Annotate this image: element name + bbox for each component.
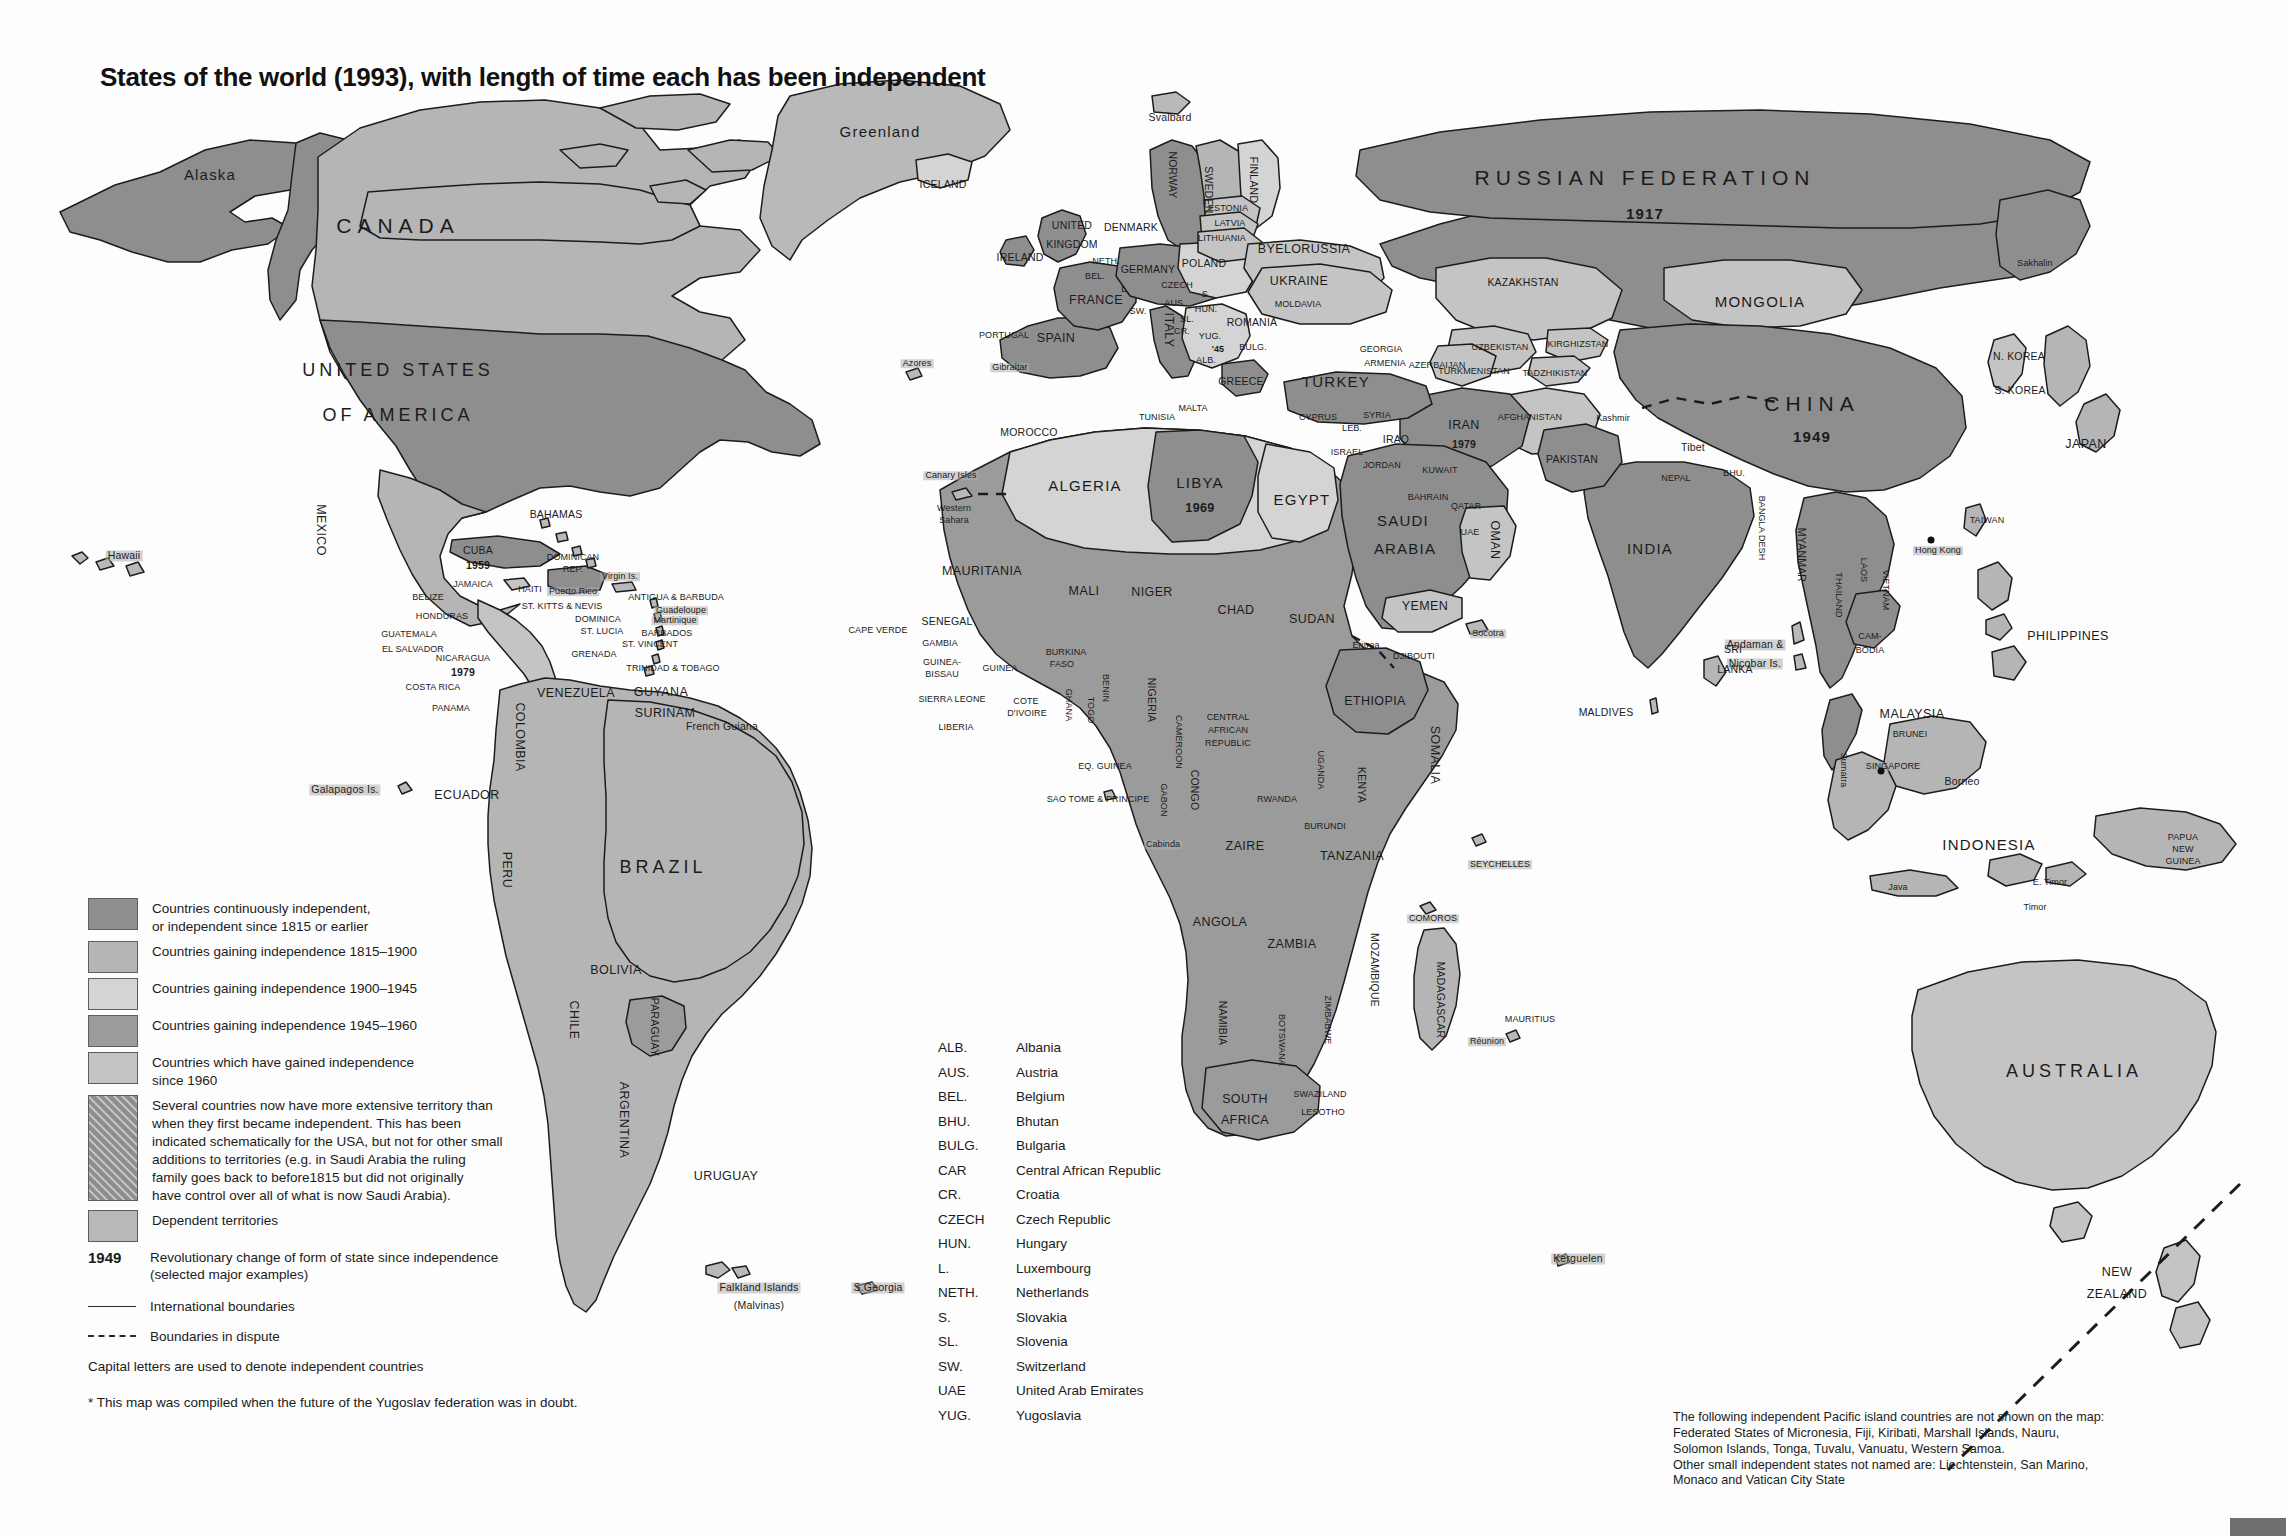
abbreviation-row: UAEUnited Arab Emirates — [938, 1383, 1161, 1398]
legend-swatch-ind_1900_1945 — [88, 978, 138, 1010]
legend-item-1: Countries gaining independence 1815–1900 — [88, 941, 588, 973]
abbreviation-row: HUN.Hungary — [938, 1236, 1161, 1251]
legend-label-3: Countries gaining independence 1945–1960 — [152, 1015, 417, 1035]
legend-swatch-ind_since_1960 — [88, 1052, 138, 1084]
legend-label-6: Dependent territories — [152, 1210, 278, 1230]
abbreviation-row: CR.Croatia — [938, 1187, 1161, 1202]
abbreviation-key: SL. — [938, 1334, 1016, 1349]
legend-item-3: Countries gaining independence 1945–1960 — [88, 1015, 588, 1047]
abbreviation-row: SW.Switzerland — [938, 1359, 1161, 1374]
pacific-note-line: The following independent Pacific island… — [1673, 1410, 2104, 1426]
abbreviation-row: AUS.Austria — [938, 1065, 1161, 1080]
abbreviation-row: BEL.Belgium — [938, 1089, 1161, 1104]
legend-international-boundaries-row: International boundaries — [88, 1296, 588, 1316]
abbreviation-row: ALB.Albania — [938, 1040, 1161, 1055]
pacific-note-line: Monaco and Vatican City State — [1673, 1473, 2104, 1489]
legend-label-2: Countries gaining independence 1900–1945 — [152, 978, 417, 998]
map-legend: Countries continuously independent, or i… — [88, 898, 588, 1412]
abbreviation-value: Netherlands — [1016, 1285, 1089, 1300]
abbreviation-key: YUG. — [938, 1408, 1016, 1423]
page-corner-mark — [2230, 1518, 2286, 1536]
abbreviation-key: AUS. — [938, 1065, 1016, 1080]
abbreviation-key: BEL. — [938, 1089, 1016, 1104]
legend-international-boundaries-label: International boundaries — [150, 1296, 295, 1316]
abbreviation-key: S. — [938, 1310, 1016, 1325]
page-title: States of the world (1993), with length … — [100, 62, 985, 93]
pacific-note-line: Federated States of Micronesia, Fiji, Ki… — [1673, 1426, 2104, 1442]
legend-disputed-boundaries-row: Boundaries in dispute — [88, 1326, 588, 1346]
abbreviation-value: Belgium — [1016, 1089, 1065, 1104]
legend-item-0: Countries continuously independent, or i… — [88, 898, 588, 936]
legend-capitals-note: Capital letters are used to denote indep… — [88, 1358, 588, 1376]
legend-label-4: Countries which have gained independence… — [152, 1052, 414, 1090]
abbreviation-key: CAR — [938, 1163, 1016, 1178]
abbreviation-value: Central African Republic — [1016, 1163, 1161, 1178]
legend-label-0: Countries continuously independent, or i… — [152, 898, 370, 936]
abbreviation-row: CARCentral African Republic — [938, 1163, 1161, 1178]
abbreviation-value: Hungary — [1016, 1236, 1067, 1251]
abbreviation-key: CZECH — [938, 1212, 1016, 1227]
legend-revolution-row: 1949 Revolutionary change of form of sta… — [88, 1247, 588, 1285]
legend-revolution-label: Revolutionary change of form of state si… — [150, 1247, 498, 1285]
legend-swatch-dependent — [88, 1210, 138, 1242]
abbreviation-value: United Arab Emirates — [1016, 1383, 1144, 1398]
international-boundary-icon — [88, 1296, 136, 1316]
pacific-note-line: Solomon Islands, Tonga, Tuvalu, Vanuatu,… — [1673, 1442, 2104, 1458]
abbreviation-key: UAE — [938, 1383, 1016, 1398]
abbreviation-key: BHU. — [938, 1114, 1016, 1129]
abbreviation-key: ALB. — [938, 1040, 1016, 1055]
abbreviation-key: NETH. — [938, 1285, 1016, 1300]
abbreviation-key: SW. — [938, 1359, 1016, 1374]
legend-swatch-list: Countries continuously independent, or i… — [88, 898, 588, 1242]
legend-swatch-ind_1815_1900 — [88, 941, 138, 973]
legend-item-4: Countries which have gained independence… — [88, 1052, 588, 1090]
disputed-boundary-icon — [88, 1326, 136, 1346]
abbreviation-row: L.Luxembourg — [938, 1261, 1161, 1276]
abbreviation-row: BULG.Bulgaria — [938, 1138, 1161, 1153]
legend-swatch-extended_territory — [88, 1095, 138, 1201]
legend-swatch-ind_1945_1960 — [88, 1015, 138, 1047]
abbreviation-value: Slovenia — [1016, 1334, 1068, 1349]
abbreviation-value: Bhutan — [1016, 1114, 1059, 1129]
abbreviation-row: YUG.Yugoslavia — [938, 1408, 1161, 1423]
abbreviation-key: L. — [938, 1261, 1016, 1276]
legend-footnote: * This map was compiled when the future … — [88, 1394, 588, 1412]
pacific-note-line: Other small independent states not named… — [1673, 1458, 2104, 1474]
abbreviation-value: Austria — [1016, 1065, 1058, 1080]
legend-disputed-boundaries-label: Boundaries in dispute — [150, 1326, 280, 1346]
abbreviation-row: BHU.Bhutan — [938, 1114, 1161, 1129]
abbreviation-row: S.Slovakia — [938, 1310, 1161, 1325]
abbreviation-key: BULG. — [938, 1138, 1016, 1153]
legend-label-5: Several countries now have more extensiv… — [152, 1095, 502, 1205]
abbreviation-value: Switzerland — [1016, 1359, 1086, 1374]
abbreviation-row: CZECHCzech Republic — [938, 1212, 1161, 1227]
pacific-islands-note: The following independent Pacific island… — [1673, 1410, 2104, 1489]
abbreviation-value: Luxembourg — [1016, 1261, 1091, 1276]
abbreviation-row: NETH.Netherlands — [938, 1285, 1161, 1300]
abbreviation-value: Czech Republic — [1016, 1212, 1111, 1227]
abbreviation-row: SL.Slovenia — [938, 1334, 1161, 1349]
legend-swatch-continuous_pre1815 — [88, 898, 138, 930]
abbreviation-value: Bulgaria — [1016, 1138, 1066, 1153]
abbreviation-value: Albania — [1016, 1040, 1061, 1055]
legend-item-5: Several countries now have more extensiv… — [88, 1095, 588, 1205]
abbreviation-list: ALB.AlbaniaAUS.AustriaBEL.BelgiumBHU.Bhu… — [938, 1040, 1161, 1432]
legend-label-1: Countries gaining independence 1815–1900 — [152, 941, 417, 961]
legend-item-2: Countries gaining independence 1900–1945 — [88, 978, 588, 1010]
legend-revolution-year: 1949 — [88, 1247, 136, 1266]
legend-item-6: Dependent territories — [88, 1210, 588, 1242]
abbreviation-key: HUN. — [938, 1236, 1016, 1251]
abbreviation-key: CR. — [938, 1187, 1016, 1202]
abbreviation-value: Croatia — [1016, 1187, 1060, 1202]
abbreviation-value: Yugoslavia — [1016, 1408, 1081, 1423]
abbreviation-value: Slovakia — [1016, 1310, 1067, 1325]
